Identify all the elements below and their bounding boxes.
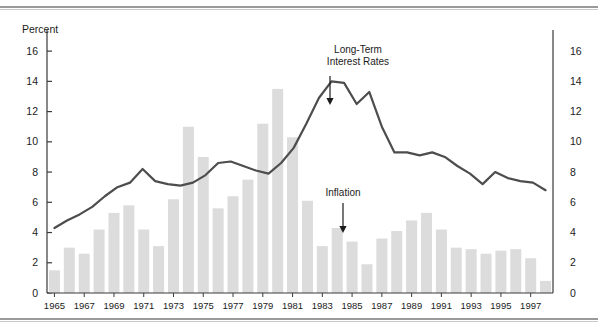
bar [79, 254, 90, 293]
x-tick-label: 1967 [74, 300, 95, 311]
bar [421, 213, 432, 293]
y-tick-label-right: 0 [570, 287, 576, 299]
y-tick-label: 4 [32, 226, 38, 238]
annotation-inflation: Inflation [325, 187, 360, 233]
y-tick-label-right: 2 [570, 256, 576, 268]
x-tick-label: 1969 [103, 300, 124, 311]
bar [272, 89, 283, 293]
x-tick-label: 1977 [222, 300, 243, 311]
bar [317, 246, 328, 293]
x-tick-label: 1987 [371, 300, 392, 311]
bar [332, 228, 343, 293]
x-tick-label: 1973 [163, 300, 184, 311]
annotation-long-term-interest-rates: Long-TermInterest Rates [326, 44, 389, 105]
bar [495, 251, 506, 293]
bar [213, 208, 224, 293]
annotation-label: Interest Rates [327, 56, 389, 67]
bar [525, 258, 536, 293]
bar [466, 249, 477, 293]
bar [347, 242, 358, 293]
x-tick-label: 1985 [342, 300, 363, 311]
y-tick-label-right: 4 [570, 226, 576, 238]
bar [94, 230, 105, 293]
x-tick-label: 1993 [461, 300, 482, 311]
annotation-label: Inflation [325, 187, 360, 198]
x-tick-label: 1983 [312, 300, 333, 311]
bar [168, 199, 179, 293]
x-tick-label: 1979 [252, 300, 273, 311]
y-tick-label: 12 [26, 105, 38, 117]
annotation-arrow-head [326, 98, 333, 105]
bar [153, 246, 164, 293]
y-tick-label-right: 6 [570, 196, 576, 208]
bar [228, 196, 239, 293]
x-tick-label: 1965 [44, 300, 65, 311]
y-tick-label: 6 [32, 196, 38, 208]
bar [108, 213, 119, 293]
annotation-label: Long-Term [334, 44, 382, 55]
y-tick-label: 0 [32, 287, 38, 299]
bar [302, 201, 313, 293]
y-tick-label-right: 10 [570, 135, 582, 147]
bar [510, 249, 521, 293]
bar [406, 220, 417, 293]
chart-page: 0246810121416 0246810121416 196519671969… [0, 0, 598, 329]
bar [391, 231, 402, 293]
bar [183, 127, 194, 293]
y-axis-left: 0246810121416 [26, 30, 52, 299]
bar [257, 124, 268, 293]
y-axis-title: Percent [22, 23, 58, 35]
bar [481, 254, 492, 293]
y-tick-label-right: 8 [570, 166, 576, 178]
y-tick-label: 16 [26, 45, 38, 57]
bar [376, 239, 387, 293]
y-tick-label: 14 [26, 75, 38, 87]
bar [64, 248, 75, 293]
y-axis-right: 0246810121416 [553, 30, 582, 299]
bar [123, 205, 134, 293]
bar [361, 264, 372, 293]
bar [287, 137, 298, 293]
bar [138, 230, 149, 293]
x-tick-label: 1989 [401, 300, 422, 311]
x-axis: 1965196719691971197319751977197919811983… [44, 293, 553, 311]
chart-annotations: Long-TermInterest RatesInflation [325, 44, 389, 233]
bar [436, 230, 447, 293]
x-tick-label: 1975 [193, 300, 214, 311]
y-tick-label: 8 [32, 166, 38, 178]
x-tick-label: 1971 [133, 300, 154, 311]
y-tick-label-right: 12 [570, 105, 582, 117]
x-tick-label: 1981 [282, 300, 303, 311]
y-tick-label-right: 14 [570, 75, 582, 87]
y-tick-label: 2 [32, 256, 38, 268]
bar [451, 248, 462, 293]
y-tick-label: 10 [26, 135, 38, 147]
chart-plot: 0246810121416 0246810121416 196519671969… [0, 0, 598, 329]
y-tick-label-right: 16 [570, 45, 582, 57]
bar [49, 270, 60, 293]
x-tick-label: 1991 [431, 300, 452, 311]
bar [242, 180, 253, 293]
x-tick-label: 1997 [520, 300, 541, 311]
x-tick-label: 1995 [490, 300, 511, 311]
inflation-bar-series [49, 89, 551, 293]
bar [540, 281, 551, 293]
